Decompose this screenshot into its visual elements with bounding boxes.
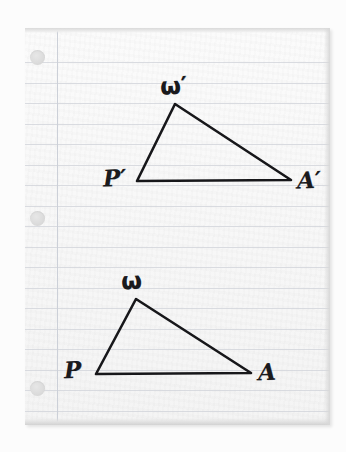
label-vertex-a: A	[258, 360, 277, 384]
label-vertex-omega-prime: ω′	[159, 73, 187, 98]
triangle-omega-p-a	[96, 299, 251, 374]
label-vertex-p: P	[64, 358, 82, 382]
notebook-photo-scene: ω′ P′ A′ ω P A	[0, 0, 346, 452]
label-vertex-omega: ω	[120, 268, 142, 293]
label-vertex-p-prime: P′	[103, 166, 127, 190]
label-vertex-a-prime: A′	[297, 168, 322, 192]
pen-ink-layer	[0, 0, 346, 452]
triangle-omega-prime-p-prime-a-prime	[137, 104, 291, 181]
